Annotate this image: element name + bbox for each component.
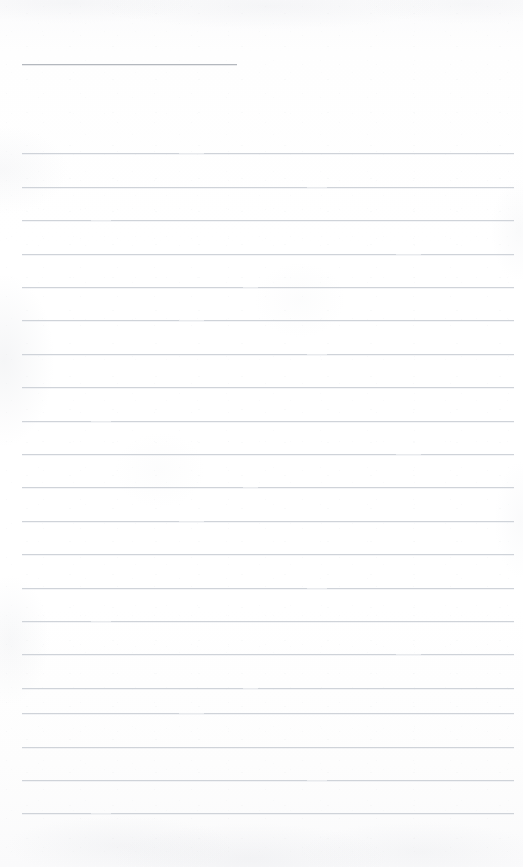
- rule-line: [22, 780, 514, 781]
- rule-line: [22, 521, 514, 522]
- rule-line: [22, 654, 514, 655]
- rule-line: [22, 287, 514, 288]
- rule-line: [22, 688, 514, 689]
- rule-line: [22, 713, 514, 714]
- header-rule-line: [22, 64, 237, 65]
- rule-line: [22, 153, 514, 154]
- rule-line: [22, 621, 514, 622]
- notepad-page: [0, 0, 523, 867]
- rule-line: [22, 554, 514, 555]
- rule-line: [22, 220, 514, 221]
- rule-line: [22, 354, 514, 355]
- rule-line: [22, 588, 514, 589]
- rule-line: [22, 387, 514, 388]
- rule-line: [22, 421, 514, 422]
- rule-line: [22, 454, 514, 455]
- rule-line: [22, 487, 514, 488]
- rule-line: [22, 747, 514, 748]
- ruled-lines: [0, 0, 523, 867]
- rule-line: [22, 254, 514, 255]
- rule-line: [22, 813, 514, 814]
- rule-line: [22, 320, 514, 321]
- rule-line: [22, 187, 514, 188]
